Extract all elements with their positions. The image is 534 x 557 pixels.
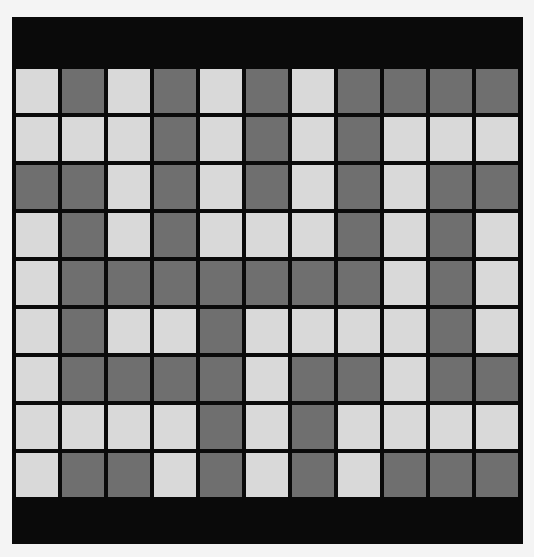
tile-r5-c6[interactable]: [246, 261, 288, 305]
tile-r4-c6[interactable]: [246, 213, 288, 257]
tile-r9-c2[interactable]: [62, 453, 104, 497]
tile-r8-c4[interactable]: [154, 405, 196, 449]
tile-r7-c9[interactable]: [384, 357, 426, 401]
tile-r1-c11[interactable]: [476, 69, 518, 113]
tile-r7-c3[interactable]: [108, 357, 150, 401]
tile-r8-c8[interactable]: [338, 405, 380, 449]
tile-r5-c9[interactable]: [384, 261, 426, 305]
tile-r9-c5[interactable]: [200, 453, 242, 497]
tile-r4-c2[interactable]: [62, 213, 104, 257]
tile-r6-c10[interactable]: [430, 309, 472, 353]
tile-r7-c11[interactable]: [476, 357, 518, 401]
tile-r3-c3[interactable]: [108, 165, 150, 209]
tile-r3-c4[interactable]: [154, 165, 196, 209]
tile-r7-c2[interactable]: [62, 357, 104, 401]
tile-r7-c4[interactable]: [154, 357, 196, 401]
tile-r4-c10[interactable]: [430, 213, 472, 257]
tile-r4-c8[interactable]: [338, 213, 380, 257]
tile-r2-c5[interactable]: [200, 117, 242, 161]
tile-r1-c2[interactable]: [62, 69, 104, 113]
tile-r1-c5[interactable]: [200, 69, 242, 113]
tile-r6-c6[interactable]: [246, 309, 288, 353]
tile-r1-c9[interactable]: [384, 69, 426, 113]
tile-r2-c3[interactable]: [108, 117, 150, 161]
tile-r7-c1[interactable]: [16, 357, 58, 401]
tile-r9-c3[interactable]: [108, 453, 150, 497]
tile-r1-c6[interactable]: [246, 69, 288, 113]
tile-r5-c5[interactable]: [200, 261, 242, 305]
tile-r5-c10[interactable]: [430, 261, 472, 305]
tile-r7-c7[interactable]: [292, 357, 334, 401]
tile-r3-c6[interactable]: [246, 165, 288, 209]
tile-r1-c1[interactable]: [16, 69, 58, 113]
tile-r8-c10[interactable]: [430, 405, 472, 449]
tile-r4-c3[interactable]: [108, 213, 150, 257]
tile-r5-c3[interactable]: [108, 261, 150, 305]
tile-r7-c6[interactable]: [246, 357, 288, 401]
tile-r6-c8[interactable]: [338, 309, 380, 353]
tile-r4-c9[interactable]: [384, 213, 426, 257]
tile-r1-c8[interactable]: [338, 69, 380, 113]
tile-r5-c7[interactable]: [292, 261, 334, 305]
tile-r6-c3[interactable]: [108, 309, 150, 353]
tile-r9-c4[interactable]: [154, 453, 196, 497]
tile-r3-c10[interactable]: [430, 165, 472, 209]
tile-r2-c6[interactable]: [246, 117, 288, 161]
tile-r2-c8[interactable]: [338, 117, 380, 161]
tile-r4-c4[interactable]: [154, 213, 196, 257]
tile-r1-c7[interactable]: [292, 69, 334, 113]
tile-r7-c5[interactable]: [200, 357, 242, 401]
tile-r3-c5[interactable]: [200, 165, 242, 209]
tile-r9-c8[interactable]: [338, 453, 380, 497]
tile-r5-c1[interactable]: [16, 261, 58, 305]
tile-r1-c10[interactable]: [430, 69, 472, 113]
tile-r2-c10[interactable]: [430, 117, 472, 161]
tile-r2-c7[interactable]: [292, 117, 334, 161]
tile-r3-c7[interactable]: [292, 165, 334, 209]
tile-r9-c6[interactable]: [246, 453, 288, 497]
tile-r9-c7[interactable]: [292, 453, 334, 497]
tile-r3-c8[interactable]: [338, 165, 380, 209]
tile-r8-c3[interactable]: [108, 405, 150, 449]
tile-r4-c11[interactable]: [476, 213, 518, 257]
tile-r9-c10[interactable]: [430, 453, 472, 497]
tile-r6-c11[interactable]: [476, 309, 518, 353]
tile-r8-c9[interactable]: [384, 405, 426, 449]
tile-r3-c11[interactable]: [476, 165, 518, 209]
tile-r1-c4[interactable]: [154, 69, 196, 113]
tile-r3-c1[interactable]: [16, 165, 58, 209]
tile-r1-c3[interactable]: [108, 69, 150, 113]
tile-r8-c11[interactable]: [476, 405, 518, 449]
tile-r8-c2[interactable]: [62, 405, 104, 449]
tile-r7-c8[interactable]: [338, 357, 380, 401]
tile-r4-c1[interactable]: [16, 213, 58, 257]
tile-r6-c9[interactable]: [384, 309, 426, 353]
tile-r3-c2[interactable]: [62, 165, 104, 209]
tile-r8-c5[interactable]: [200, 405, 242, 449]
tile-r3-c9[interactable]: [384, 165, 426, 209]
tile-r4-c5[interactable]: [200, 213, 242, 257]
tile-r6-c5[interactable]: [200, 309, 242, 353]
tile-r6-c2[interactable]: [62, 309, 104, 353]
tile-r5-c2[interactable]: [62, 261, 104, 305]
tile-r2-c4[interactable]: [154, 117, 196, 161]
tile-r7-c10[interactable]: [430, 357, 472, 401]
tile-r8-c1[interactable]: [16, 405, 58, 449]
tile-r2-c11[interactable]: [476, 117, 518, 161]
tile-r5-c8[interactable]: [338, 261, 380, 305]
tile-r6-c1[interactable]: [16, 309, 58, 353]
tile-r2-c1[interactable]: [16, 117, 58, 161]
tile-r6-c4[interactable]: [154, 309, 196, 353]
tile-r9-c11[interactable]: [476, 453, 518, 497]
tile-r2-c2[interactable]: [62, 117, 104, 161]
tile-r8-c7[interactable]: [292, 405, 334, 449]
tile-r5-c4[interactable]: [154, 261, 196, 305]
tile-r5-c11[interactable]: [476, 261, 518, 305]
tile-r9-c9[interactable]: [384, 453, 426, 497]
tile-grid: [16, 69, 518, 497]
tile-r8-c6[interactable]: [246, 405, 288, 449]
tile-r9-c1[interactable]: [16, 453, 58, 497]
tile-r2-c9[interactable]: [384, 117, 426, 161]
tile-r4-c7[interactable]: [292, 213, 334, 257]
tile-r6-c7[interactable]: [292, 309, 334, 353]
